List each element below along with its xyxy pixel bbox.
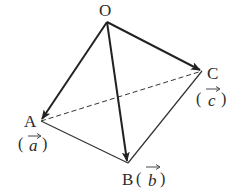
svg-text:): ) bbox=[221, 90, 226, 108]
vertex-label-o: O bbox=[99, 1, 111, 20]
edge-bc bbox=[128, 71, 202, 163]
vector-a-label: ( a ) bbox=[18, 134, 47, 156]
tetrahedron-diagram: O A B C ( a ) ( b ) ( c ) bbox=[0, 0, 246, 192]
edge-ac-dashed bbox=[41, 71, 202, 121]
svg-text:): ) bbox=[42, 135, 47, 153]
svg-text:(: ( bbox=[196, 90, 201, 108]
svg-text:): ) bbox=[160, 170, 165, 188]
edge-ab bbox=[41, 121, 128, 163]
vector-oc-arrow bbox=[107, 22, 200, 70]
vector-oa-arrow bbox=[42, 22, 107, 119]
svg-text:c: c bbox=[208, 91, 216, 110]
vector-ob-arrow bbox=[107, 22, 127, 161]
svg-text:(: ( bbox=[18, 135, 23, 153]
vertex-label-c: C bbox=[207, 64, 218, 83]
svg-text:(: ( bbox=[136, 170, 141, 188]
svg-text:b: b bbox=[148, 171, 157, 190]
svg-text:a: a bbox=[29, 136, 38, 155]
vertex-label-a: A bbox=[24, 112, 37, 131]
vector-b-label: ( b ) bbox=[136, 165, 165, 191]
vector-c-label: ( c ) bbox=[196, 87, 226, 111]
vertex-label-b: B bbox=[122, 170, 133, 189]
